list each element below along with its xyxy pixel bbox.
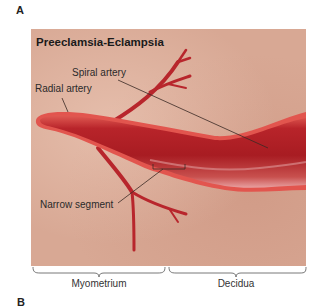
myometrium-brace	[33, 267, 165, 277]
narrow-segment-label: Narrow segment	[40, 199, 113, 210]
panel-b-letter: B	[17, 296, 25, 307]
radial-artery-label: Radial artery	[35, 83, 92, 94]
spiral-artery-branch	[112, 50, 190, 122]
decidua-label: Decidua	[186, 278, 286, 289]
decidua-brace	[169, 267, 306, 277]
myometrium-label: Myometrium	[49, 278, 149, 289]
radial-artery-leader	[62, 98, 68, 112]
spiral-artery-label: Spiral artery	[72, 67, 126, 78]
diagram-title: Preeclamsia-Eclampsia	[36, 36, 164, 48]
region-braces	[33, 267, 306, 277]
